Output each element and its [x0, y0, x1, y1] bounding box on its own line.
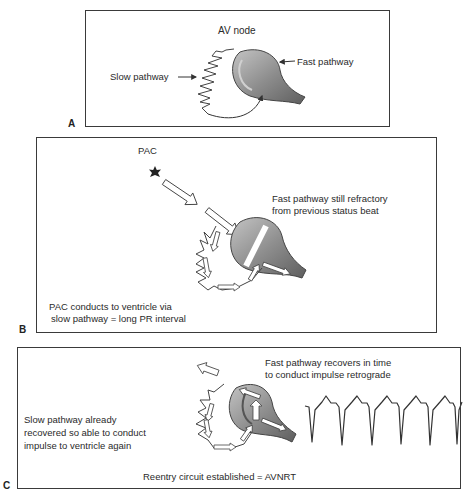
fast-recovery-line-1: Fast pathway recovers in time: [265, 357, 391, 369]
panel-b-letter: B: [19, 324, 26, 335]
slow-recovered-line-1: Slow pathway already: [24, 414, 116, 426]
fast-refractory-line-1: Fast pathway still refractory: [272, 193, 388, 205]
avnrt-conclusion: Reentry circuit established = AVNRT: [143, 471, 296, 483]
panel-c-letter: C: [3, 480, 10, 491]
panel-a-av-node-icon: [233, 50, 305, 104]
fast-recovery-line-2: to conduct impulse retrograde: [265, 369, 391, 381]
panel-a-conduction-arrow: [208, 96, 262, 118]
panel-a-slow-pathway-zigzag: [198, 49, 234, 114]
slow-recovered-line-3: impulse to ventricle again: [24, 440, 131, 452]
slow-recovered-line-2: recovered so able to conduct: [24, 427, 146, 439]
slow-conduction-line-1: PAC conducts to ventricle via: [49, 301, 172, 313]
slow-conduction-line-2: slow pathway = long PR interval: [51, 313, 186, 325]
fast-refractory-line-2: from previous status beat: [272, 205, 379, 217]
pac-label: PAC: [138, 145, 157, 157]
fast-pathway-pointer: [280, 61, 295, 62]
